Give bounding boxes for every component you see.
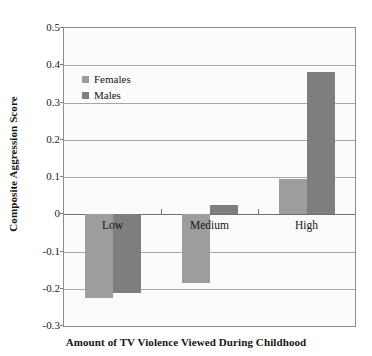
y-axis-ticks: 0.50.40.30.20.10-0.1-0.2-0.3 [22,27,60,327]
legend-item-males: Males [82,88,131,102]
gridline [64,65,355,66]
legend-item-females: Females [82,72,131,86]
bar-females-high [279,179,307,214]
plot-area: LowMediumHigh Females Males [63,27,356,327]
y-axis-tick-label: -0.1 [26,245,60,257]
y-axis-tick-label: 0.1 [26,170,60,182]
y-axis-tick-label: -0.3 [26,319,60,331]
x-axis-title: Amount of TV Violence Viewed During Chil… [0,336,372,348]
category-tick-mark [258,209,259,214]
chart-figure: Composite Aggression Score 0.50.40.30.20… [0,0,372,356]
y-axis-tick-label: 0.5 [26,21,60,33]
chart-legend: Females Males [82,72,131,104]
y-axis-tick-label: 0 [26,207,60,219]
category-tick-mark [161,209,162,214]
legend-swatch-females-icon [82,76,89,83]
legend-label-males: Males [94,89,121,101]
category-label-low: Low [102,219,123,231]
category-label-medium: Medium [190,219,229,231]
bar-males-medium [210,205,238,214]
y-axis-tick-label: -0.2 [26,282,60,294]
legend-label-females: Females [94,73,131,85]
y-axis-tick-label: 0.2 [26,133,60,145]
bar-males-high [307,72,335,215]
gridline [64,325,355,326]
gridline [64,28,355,29]
y-axis-title-text: Composite Aggression Score [7,96,19,231]
category-label-high: High [295,219,318,231]
legend-swatch-males-icon [82,92,89,99]
y-axis-tick-label: 0.3 [26,96,60,108]
y-axis-tick-label: 0.4 [26,58,60,70]
